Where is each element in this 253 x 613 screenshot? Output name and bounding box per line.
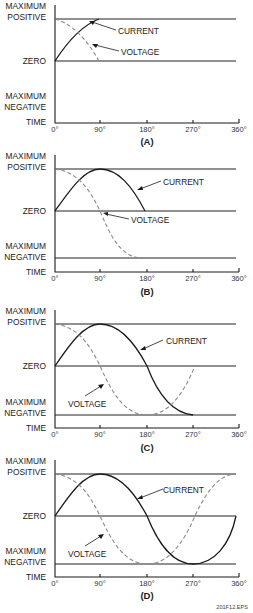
current-label: CURRENT	[166, 336, 207, 346]
current-arrow	[140, 181, 161, 189]
svg-text:TIME: TIME	[26, 572, 46, 582]
axes	[55, 155, 239, 272]
y-label-max-positive-2: POSITIVE	[7, 12, 46, 22]
svg-text:ZERO: ZERO	[23, 206, 47, 216]
panel-c: MAXIMUM POSITIVE ZERO MAXIMUM NEGATIVE T…	[4, 306, 247, 453]
y-label-time: TIME	[26, 117, 46, 127]
current-arrow	[140, 489, 163, 498]
svg-text:POSITIVE: POSITIVE	[7, 467, 46, 477]
svg-text:180°: 180°	[139, 125, 155, 134]
voltage-arrow	[85, 536, 101, 546]
voltage-label: VOLTAGE	[121, 47, 160, 57]
panel-b: MAXIMUM POSITIVE ZERO MAXIMUM NEGATIVE T…	[4, 151, 247, 297]
svg-text:270°: 270°	[185, 125, 201, 134]
svg-text:0°: 0°	[51, 430, 58, 439]
svg-text:90°: 90°	[94, 579, 105, 588]
svg-text:POSITIVE: POSITIVE	[7, 317, 46, 327]
svg-text:MAXIMUM: MAXIMUM	[6, 546, 47, 556]
voltage-label: VOLTAGE	[68, 549, 107, 559]
panel-d: MAXIMUM POSITIVE ZERO MAXIMUM NEGATIVE T…	[4, 456, 247, 601]
ac-phase-diagram: MAXIMUM POSITIVE ZERO MAXIMUM NEGATIVE T…	[0, 0, 253, 613]
svg-text:0°: 0°	[51, 579, 58, 588]
panel-caption-b: (B)	[140, 286, 153, 297]
panel-caption-a: (A)	[140, 136, 153, 147]
svg-text:270°: 270°	[185, 579, 201, 588]
axes	[55, 460, 239, 577]
voltage-arrow	[85, 386, 101, 396]
current-label: CURRENT	[163, 177, 204, 187]
current-label: CURRENT	[118, 26, 159, 36]
voltage-arrow	[106, 214, 129, 219]
y-label-zero: ZERO	[23, 56, 47, 66]
y-label-max-positive-1: MAXIMUM	[6, 1, 47, 11]
y-label-max-negative-2: NEGATIVE	[4, 102, 46, 112]
panel-caption-c: (C)	[140, 442, 153, 453]
svg-text:NEGATIVE: NEGATIVE	[4, 557, 46, 567]
svg-text:ZERO: ZERO	[23, 361, 47, 371]
svg-text:360°: 360°	[231, 579, 247, 588]
panel-a: MAXIMUM POSITIVE ZERO MAXIMUM NEGATIVE T…	[4, 1, 247, 147]
svg-text:360°: 360°	[231, 125, 247, 134]
svg-text:0°: 0°	[51, 125, 58, 134]
voltage-curve	[55, 169, 140, 258]
svg-text:MAXIMUM: MAXIMUM	[6, 397, 47, 407]
axes	[55, 5, 239, 123]
voltage-label: VOLTAGE	[131, 215, 170, 225]
svg-text:ZERO: ZERO	[23, 511, 47, 521]
panel-caption-d: (D)	[140, 590, 153, 601]
svg-text:MAXIMUM: MAXIMUM	[6, 306, 47, 316]
svg-text:0°: 0°	[51, 274, 58, 283]
y-label-max-negative-1: MAXIMUM	[6, 91, 47, 101]
svg-text:180°: 180°	[139, 430, 155, 439]
figure-filename: 201F12.EPS	[216, 604, 248, 610]
svg-text:POSITIVE: POSITIVE	[7, 162, 46, 172]
current-curve	[55, 19, 99, 61]
svg-text:NEGATIVE: NEGATIVE	[4, 408, 46, 418]
current-arrow	[143, 340, 163, 349]
svg-text:180°: 180°	[139, 274, 155, 283]
svg-text:TIME: TIME	[26, 423, 46, 433]
voltage-arrow	[95, 45, 119, 51]
svg-text:270°: 270°	[185, 274, 201, 283]
current-arrow	[92, 22, 116, 30]
svg-text:90°: 90°	[94, 125, 105, 134]
current-label: CURRENT	[163, 485, 204, 495]
svg-text:MAXIMUM: MAXIMUM	[6, 151, 47, 161]
svg-text:360°: 360°	[231, 430, 247, 439]
svg-text:MAXIMUM: MAXIMUM	[6, 456, 47, 466]
svg-text:90°: 90°	[94, 274, 105, 283]
svg-text:TIME: TIME	[26, 267, 46, 277]
axes	[55, 310, 239, 428]
current-curve	[55, 169, 145, 211]
svg-text:NEGATIVE: NEGATIVE	[4, 252, 46, 262]
voltage-curve	[55, 19, 99, 61]
svg-text:270°: 270°	[185, 430, 201, 439]
svg-text:360°: 360°	[231, 274, 247, 283]
svg-text:90°: 90°	[94, 430, 105, 439]
svg-text:MAXIMUM: MAXIMUM	[6, 241, 47, 251]
voltage-label: VOLTAGE	[68, 399, 107, 409]
svg-text:180°: 180°	[139, 579, 155, 588]
